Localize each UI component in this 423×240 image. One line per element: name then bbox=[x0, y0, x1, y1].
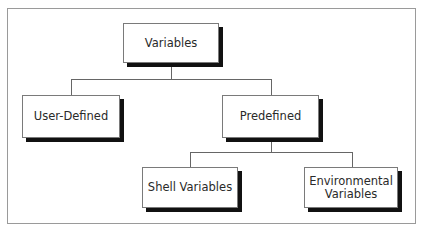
node-variables: Variables bbox=[123, 23, 219, 63]
node-shell-variables: Shell Variables bbox=[142, 167, 238, 208]
connector-root-stem bbox=[171, 67, 172, 79]
node-environmental-variables: Environmental Variables bbox=[304, 167, 398, 208]
connector-to-user-defined bbox=[71, 79, 72, 95]
node-label: Shell Variables bbox=[148, 181, 232, 194]
connector-to-environmental-variables bbox=[352, 152, 353, 167]
node-label: Variables bbox=[145, 37, 198, 50]
node-predefined: Predefined bbox=[222, 95, 319, 138]
connector-predefined-stem bbox=[271, 142, 272, 152]
connector-level1-bar bbox=[71, 79, 272, 80]
node-label: Predefined bbox=[240, 110, 302, 123]
node-user-defined: User-Defined bbox=[22, 95, 120, 138]
connector-to-shell-variables bbox=[190, 152, 191, 167]
node-label: User-Defined bbox=[34, 110, 108, 123]
connector-level2-bar bbox=[190, 152, 353, 153]
node-label-line1: Environmental bbox=[309, 175, 393, 188]
connector-to-predefined bbox=[271, 79, 272, 95]
node-label-line2: Variables bbox=[325, 188, 378, 201]
